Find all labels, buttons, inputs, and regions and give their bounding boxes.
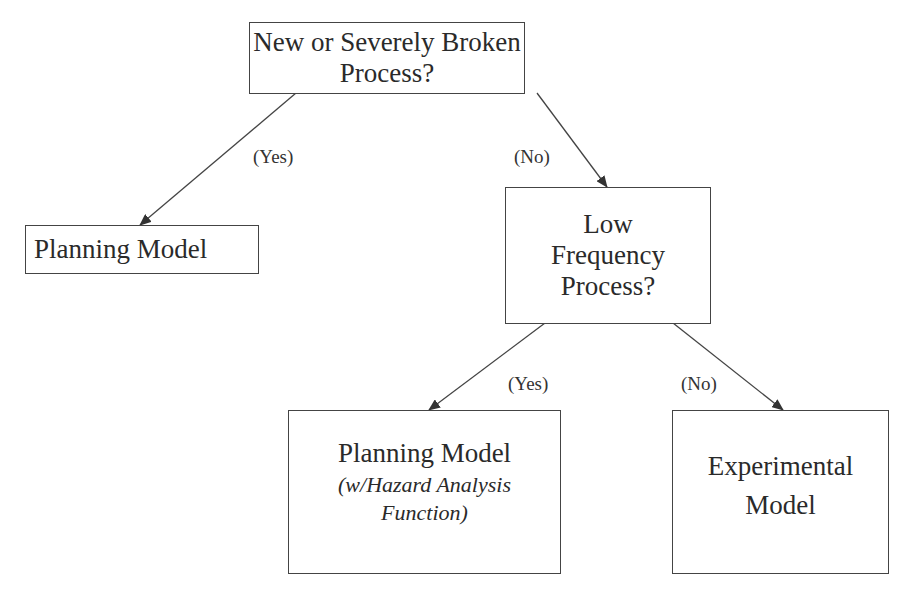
edge-label-yes: (Yes)	[253, 147, 293, 167]
node-text: New or Severely Broken	[253, 27, 521, 58]
node-text: Planning Model	[34, 234, 207, 265]
edge-lowfreq-to-experimental	[673, 323, 783, 410]
edge-label-yes: (Yes)	[508, 374, 548, 394]
edge-root-to-lowfreq	[537, 93, 607, 187]
node-text: Model	[745, 490, 816, 521]
node-subtitle: (w/Hazard Analysis	[338, 471, 511, 499]
node-text: Low	[583, 209, 633, 240]
result-planning-model-hazard: Planning Model (w/Hazard Analysis Functi…	[288, 410, 561, 574]
node-subtitle: Function)	[381, 499, 468, 527]
decision-low-frequency: Low Frequency Process?	[505, 187, 711, 324]
result-planning-model: Planning Model	[25, 225, 259, 274]
edge-label-no: (No)	[681, 374, 717, 394]
node-text: Process?	[340, 58, 434, 89]
edge-lowfreq-to-planning-hazard	[429, 323, 545, 410]
node-text: Process?	[561, 271, 655, 302]
edge-label-no: (No)	[514, 147, 550, 167]
result-experimental-model: Experimental Model	[672, 410, 889, 574]
node-title: Planning Model	[338, 438, 511, 469]
node-text: Experimental	[708, 451, 853, 482]
node-text: Frequency	[551, 240, 665, 271]
decision-new-or-broken: New or Severely Broken Process?	[249, 22, 525, 94]
